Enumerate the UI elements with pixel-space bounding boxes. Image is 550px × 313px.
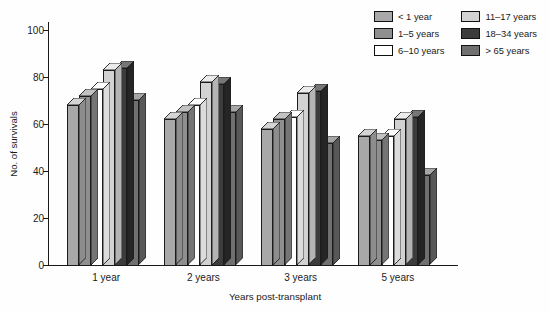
y-tick-label: 100 [27,25,44,36]
bar-side-face [370,129,377,265]
bar-front-face [67,105,79,265]
x-axis-label: Years post-transplant [0,291,550,302]
bar-side-face [139,93,146,264]
bar-side-face [200,98,207,265]
bar-side-face [188,105,195,264]
bar [164,119,176,264]
x-group-label: 3 years [284,272,317,283]
y-tick-label: 40 [33,165,44,176]
bar-side-face [309,86,316,264]
bar-side-face [430,168,437,264]
bar-side-face [176,112,183,264]
bar-front-face [164,119,176,264]
legend-entry: 11–17 years [461,8,546,25]
bar-front-face [358,136,370,265]
x-group-label: 2 years [187,272,220,283]
x-group-label: 5 years [381,272,414,283]
y-axis-line [48,22,49,266]
legend-label: > 65 years [485,46,529,55]
bar-side-face [285,112,292,264]
legend-entry: > 65 years [461,42,546,59]
bar-front-face [261,129,273,265]
y-tick-label: 80 [33,71,44,82]
bar-top-face [188,98,207,105]
bar [358,136,370,265]
legend-label: 11–17 years [485,12,536,21]
bar-side-face [382,133,389,264]
bar-top-face [103,63,122,70]
bar-side-face [321,84,328,265]
legend-swatch [461,28,480,39]
y-tick-label: 0 [38,259,44,270]
bar-side-face [79,98,86,265]
plot-area: 020406080100 1 year2 years3 years5 years [48,22,458,266]
legend-swatch [461,45,480,56]
bar-side-face [406,112,413,264]
bar [67,105,79,265]
bar-side-face [297,110,304,265]
bar-side-face [273,122,280,265]
bar-top-face [91,82,110,89]
bar-top-face [67,98,86,105]
legend-label: 18–34 years [485,29,537,38]
bar-top-face [164,112,183,119]
bar-side-face [127,61,134,265]
bar-side-face [103,82,110,265]
x-axis-line [48,265,458,266]
bar-top-face [394,112,413,119]
bar-side-face [115,63,122,265]
bar-top-face [261,122,280,129]
y-tick-label: 60 [33,118,44,129]
bar-top-face [79,89,98,96]
y-tick-label: 20 [33,212,44,223]
bar-side-face [394,129,401,265]
bar [261,129,273,265]
legend-label: < 1 year [398,12,432,21]
legend-swatch [461,11,480,22]
bar-top-face [297,86,316,93]
bar-side-face [418,110,425,265]
bar-top-face [200,75,219,82]
bar-side-face [333,136,340,265]
bar-side-face [91,89,98,265]
legend-entry: 18–34 years [461,25,546,42]
bar-chart-figure: < 1 year1–5 years6–10 years11–17 years18… [0,0,550,313]
bar-side-face [236,105,243,264]
bar-top-face [358,129,377,136]
bar-top-face [176,105,195,112]
bar-side-face [224,77,231,265]
legend-swatch [374,11,393,22]
x-group-label: 1 year [92,272,120,283]
y-axis-label: No. of survivals [8,111,19,177]
bar-side-face [212,75,219,265]
bar-top-face [273,112,292,119]
